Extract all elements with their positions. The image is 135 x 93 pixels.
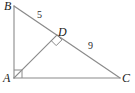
side-length-label-DC: 9 — [88, 41, 93, 51]
vertex-label-B: B — [4, 0, 11, 12]
segment-BC — [14, 6, 120, 78]
vertex-label-A: A — [3, 72, 10, 84]
side-length-label-BD: 5 — [37, 10, 42, 20]
segment-AD — [14, 35, 57, 78]
triangle-diagram-canvas — [0, 0, 135, 93]
vertex-label-C: C — [122, 72, 130, 84]
geometry-figure: B A C D 5 9 — [0, 0, 135, 93]
vertex-label-D: D — [58, 26, 67, 38]
